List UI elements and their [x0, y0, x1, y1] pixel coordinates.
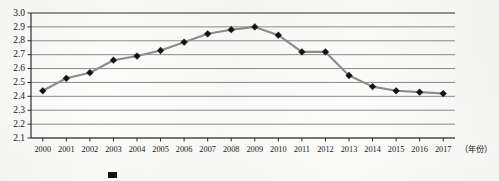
x-axis-tick-label: 2015 [388, 145, 405, 154]
x-axis-tick-label: 2007 [199, 145, 216, 154]
legend-swatch [108, 172, 117, 178]
y-axis-tick-label: 2.2 [13, 119, 25, 129]
y-axis-tick-label: 2.4 [13, 91, 25, 101]
x-axis-title: （年份） [460, 144, 492, 154]
chart-legend [108, 172, 117, 178]
x-axis-tick-label: 2006 [176, 145, 193, 154]
x-axis-tick-label: 2005 [152, 145, 169, 154]
x-axis-tick-label: 2016 [411, 145, 428, 154]
y-axis-tick-label: 3.0 [13, 8, 25, 18]
y-axis-tick-label: 2.5 [13, 77, 25, 87]
x-axis-tick-label: 2012 [317, 145, 334, 154]
x-axis-tick-label: 2013 [341, 145, 358, 154]
x-axis-tick-label: 2003 [105, 145, 122, 154]
line-chart: 3.02.92.82.72.62.52.42.32.22.1 200020012… [0, 0, 499, 181]
y-axis-tick-label: 2.3 [13, 105, 25, 115]
y-axis-tick-label: 2.9 [13, 22, 25, 32]
y-axis-tick-label: 2.8 [13, 35, 25, 45]
y-axis-tick-labels: 3.02.92.82.72.62.52.42.32.22.1 [13, 8, 25, 143]
y-axis-tick-label: 2.1 [13, 133, 25, 143]
x-axis-tick-label: 2011 [294, 145, 310, 154]
x-axis-tick-label: 2001 [58, 145, 75, 154]
chart-figure: 3.02.92.82.72.62.52.42.32.22.1 200020012… [0, 0, 499, 181]
y-axis-tick-label: 2.7 [13, 49, 25, 59]
x-axis-tick-label: 2002 [82, 145, 99, 154]
x-axis-tick-label: 2009 [246, 145, 263, 154]
x-axis-tick-label: 2010 [270, 145, 287, 154]
x-axis-tick-labels: 2000200120022003200420052006200720082009… [34, 145, 451, 154]
x-axis-tick-label: 2008 [223, 145, 240, 154]
plot-area-background [31, 13, 455, 138]
x-axis-tick-label: 2014 [364, 145, 381, 154]
y-axis-tick-label: 2.6 [13, 63, 25, 73]
x-axis-tick-label: 2017 [435, 145, 452, 154]
x-axis-tick-label: 2000 [34, 145, 51, 154]
x-axis-tick-label: 2004 [129, 145, 146, 154]
